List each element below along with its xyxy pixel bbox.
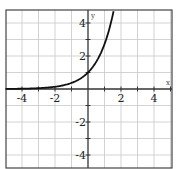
y-tick-label: -4 bbox=[75, 149, 86, 162]
y-tick-label: -2 bbox=[75, 116, 86, 129]
x-axis-label: x bbox=[166, 79, 170, 87]
x-tick-label: -2 bbox=[50, 92, 61, 105]
y-tick-label: 4 bbox=[79, 17, 86, 30]
x-tick-label: -4 bbox=[17, 92, 28, 105]
exponential-graph: -4-22442-2-4 x y bbox=[0, 0, 177, 169]
y-axis-label: y bbox=[90, 12, 95, 20]
y-tick-label: 2 bbox=[79, 50, 86, 63]
x-tick-label: 4 bbox=[151, 92, 158, 105]
x-tick-label: 2 bbox=[118, 92, 125, 105]
